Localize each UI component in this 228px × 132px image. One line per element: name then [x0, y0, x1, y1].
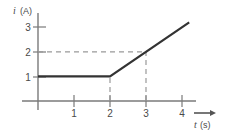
x-axis-label-unit: (s) — [200, 120, 211, 130]
x-tick-label-2: 2 — [107, 108, 113, 119]
y-axis-label: i (A) — [13, 5, 32, 16]
plot-area: 1 2 3 1 2 3 4 i (A) t (s) — [0, 0, 228, 132]
x-axis-label: t (s) — [194, 119, 211, 130]
y-tick-label-2: 2 — [25, 47, 31, 58]
x-tick-label-1: 1 — [71, 108, 77, 119]
x-tick-label-4: 4 — [179, 108, 185, 119]
x-axis-label-var: t — [194, 119, 197, 130]
y-axis-label-unit: (A) — [20, 6, 32, 16]
arrow-right-icon — [194, 110, 216, 116]
y-tick-label-1: 1 — [25, 72, 31, 83]
x-tick-label-3: 3 — [143, 108, 149, 119]
current-vs-time-graph: 1 2 3 1 2 3 4 i (A) t (s) — [0, 0, 228, 132]
y-axis-label-var: i — [13, 5, 16, 16]
current-waveform — [38, 22, 189, 76]
y-tick-label-3: 3 — [25, 22, 31, 33]
